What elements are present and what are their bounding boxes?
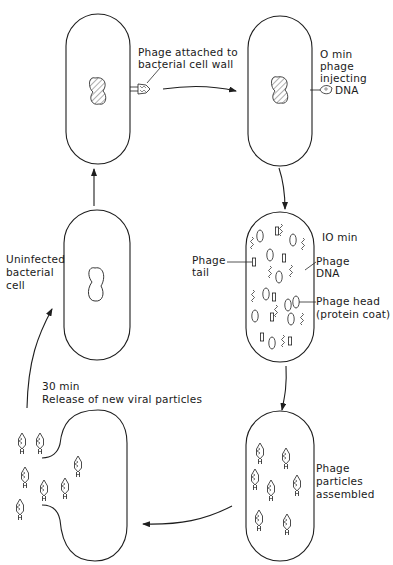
label-attached-2: bacterial cell wall [138,58,233,70]
injecting-phage-icon [310,86,332,94]
bacterial-chromosome-icon [88,268,103,301]
cell-release [17,410,128,561]
attached-phage-icon [130,84,150,94]
arrow-attached-to-injecting [163,87,236,91]
attached-callout-line [147,68,160,83]
bacterial-chromosome-icon [271,77,287,104]
phage-tail-icon [252,258,255,266]
label-phage-dna-2: DNA [316,267,340,279]
label-uninfected-1: Uninfected [6,253,65,265]
label-injecting-4: DNA [335,84,359,96]
label-phage-head-1: Phage head [316,295,380,307]
bacterial-chromosome-icon [89,78,105,105]
label-assembled-1: Phage [316,462,350,474]
label-injecting-1: O min [320,48,352,60]
cell-attached [66,14,160,164]
label-phage-dna-1: Phage [316,255,350,267]
label-30min: 30 min [42,380,80,392]
lysed-cell-wall [42,410,127,561]
arrow-injecting-to-replicating [279,168,285,209]
cell-replicating [246,212,314,362]
label-release: Release of new viral particles [42,393,202,405]
label-10min: IO min [322,231,358,243]
label-assembled-2: particles [316,475,363,487]
label-uninfected-2: bacterial [6,266,54,278]
cell-assembled [246,411,314,561]
arrow-assembled-to-release [143,506,232,524]
label-phage-tail-2: tail [192,266,209,278]
phage-lytic-cycle-diagram: Phage attached to bacterial cell wall O … [0,0,393,565]
label-uninfected-3: cell [6,279,25,291]
label-assembled-3: assembled [316,488,375,500]
label-phage-head-2: (protein coat) [316,308,390,320]
label-injecting-2: phage [320,60,354,72]
cell-injecting [248,16,332,166]
label-phage-tail-1: Phage [192,254,226,266]
label-attached-1: Phage attached to [138,46,238,58]
arrow-replicating-to-assembled [282,366,286,410]
label-injecting-3: injecting [320,72,367,84]
cell-uninfected [64,210,130,360]
